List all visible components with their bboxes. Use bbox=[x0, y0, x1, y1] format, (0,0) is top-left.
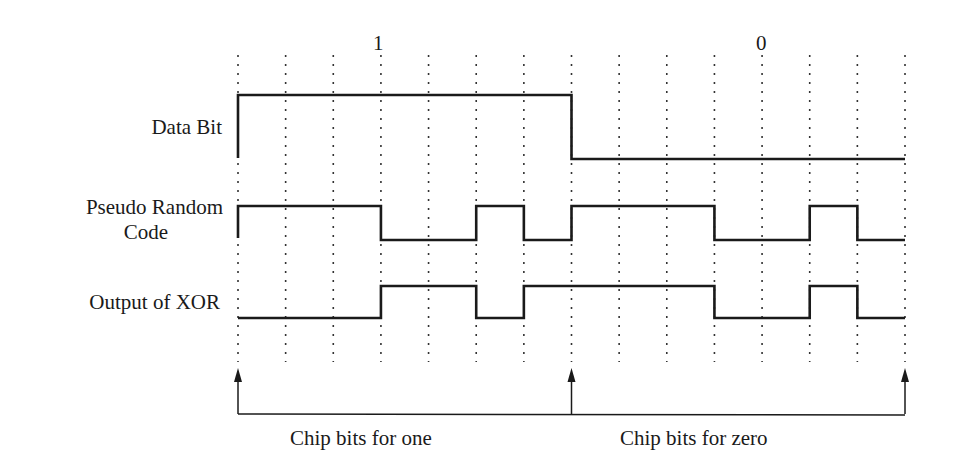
pseudo-random-code-waveform bbox=[238, 206, 905, 240]
row-label-data-bit: Data Bit bbox=[151, 117, 222, 138]
chip-bits-for-one-label: Chip bits for one bbox=[290, 428, 432, 449]
bit-label-zero: 0 bbox=[756, 33, 767, 54]
arrow-head-icon bbox=[901, 368, 909, 382]
arrow-head-icon bbox=[568, 368, 576, 382]
chip-bits-for-zero-label: Chip bits for zero bbox=[620, 428, 768, 449]
arrow-head-icon bbox=[234, 368, 242, 382]
data-bit-waveform bbox=[238, 95, 905, 159]
baseline bbox=[238, 414, 905, 415]
row-label-xor-output: Output of XOR bbox=[89, 292, 220, 313]
bit-label-one: 1 bbox=[373, 33, 384, 54]
row-label-pseudo-random-code-line1: Pseudo Random bbox=[86, 197, 223, 218]
chip-span-arrows bbox=[234, 368, 909, 415]
row-label-pseudo-random-code-line2: Code bbox=[124, 222, 168, 243]
